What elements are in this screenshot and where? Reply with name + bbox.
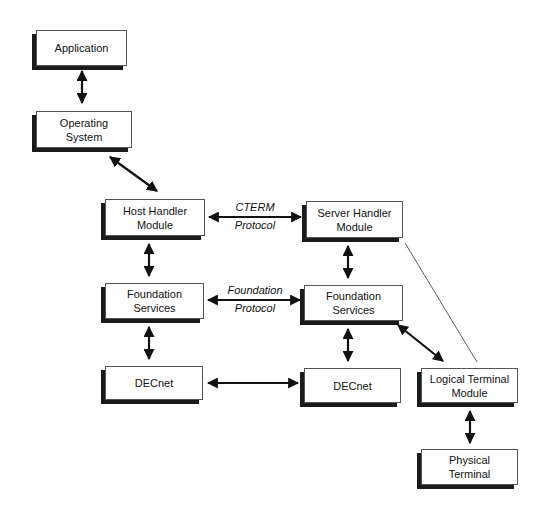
node-physical-terminal: Physical Terminal	[421, 449, 518, 485]
node-label: DECnet	[333, 379, 372, 393]
edge-label-foundation: Foundation Protocol	[210, 283, 300, 315]
node-label: Terminal	[449, 467, 491, 481]
arrow-os-host	[110, 157, 157, 191]
node-label: Module	[451, 386, 487, 400]
node-foundation-services-left: Foundation Services	[105, 283, 204, 319]
node-label: Module	[137, 218, 173, 232]
node-label: Application	[55, 41, 109, 55]
node-label: Operating	[60, 116, 108, 130]
node-label: Physical	[449, 453, 490, 467]
node-application: Application	[36, 30, 127, 66]
node-label: Server Handler	[318, 206, 392, 220]
node-label: DECnet	[135, 376, 174, 390]
node-label: Services	[133, 301, 175, 315]
edge-label-line: Foundation	[210, 283, 300, 297]
edge-label-line: CTERM	[210, 200, 300, 214]
node-server-handler-module: Server Handler Module	[306, 201, 403, 238]
edge-label-cterm: CTERM Protocol	[210, 200, 300, 232]
arrow-foundation-logical	[398, 325, 443, 361]
line-server-logical	[405, 243, 477, 362]
edge-label-line: Protocol	[210, 218, 300, 232]
node-decnet-left: DECnet	[105, 366, 203, 400]
node-logical-terminal-module: Logical Terminal Module	[421, 368, 518, 403]
node-label: Module	[336, 220, 372, 234]
node-label: System	[66, 130, 103, 144]
node-label: Host Handler	[123, 204, 187, 218]
edge-label-line: Protocol	[210, 301, 300, 315]
node-decnet-right: DECnet	[304, 368, 401, 403]
node-operating-system: Operating System	[36, 111, 132, 148]
node-label: Logical Terminal	[430, 372, 509, 386]
node-label: Services	[332, 303, 374, 317]
node-host-handler-module: Host Handler Module	[105, 199, 205, 236]
node-label: Foundation	[127, 287, 182, 301]
connector-layer	[0, 0, 543, 515]
node-label: Foundation	[326, 289, 381, 303]
node-foundation-services-right: Foundation Services	[304, 285, 403, 321]
